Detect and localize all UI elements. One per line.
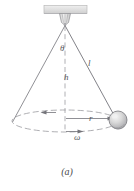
- label-theta: θ: [60, 44, 64, 53]
- conical-pendulum-figure: θ l h r ω (a): [0, 0, 134, 191]
- label-angular-velocity: ω: [74, 133, 80, 142]
- pendulum-diagram-canvas: [0, 0, 134, 191]
- label-length: l: [88, 59, 91, 68]
- pendulum-bob: [109, 111, 127, 129]
- figure-caption: (a): [0, 166, 134, 177]
- pendulum-string: [65, 26, 115, 118]
- ceiling-support-bar: [44, 6, 87, 14]
- label-height: h: [64, 73, 69, 82]
- pivot-bracket: [60, 14, 71, 26]
- cone-edge-left: [13, 26, 66, 123]
- label-radius: r: [89, 114, 93, 123]
